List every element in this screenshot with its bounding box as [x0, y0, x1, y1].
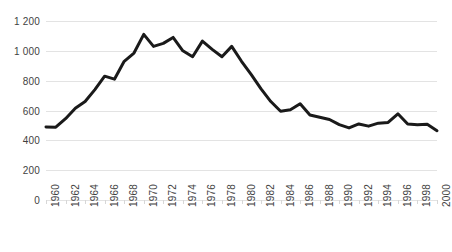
series-polyline — [46, 34, 437, 130]
